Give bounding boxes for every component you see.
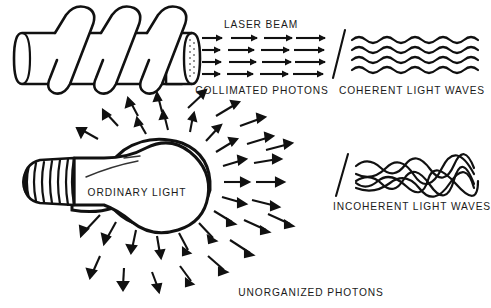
collimated-photons-label: COLLIMATED PHOTONS [195, 85, 329, 96]
diagram-canvas: LASER BEAM COLLIMATED PHOTONS COHERENT L… [0, 0, 491, 308]
unorganized-photons-label: UNORGANIZED PHOTONS [238, 287, 383, 298]
bulb-screw-base [22, 158, 74, 205]
incoherent-light-waves-label: INCOHERENT LIGHT WAVES [333, 201, 491, 212]
ordinary-light-label: ORDINARY LIGHT [88, 187, 187, 198]
coherent-light-waves-label: COHERENT LIGHT WAVES [339, 85, 485, 96]
diagram-root: LASER BEAM COLLIMATED PHOTONS COHERENT L… [0, 0, 491, 308]
laser-beam-label: LASER BEAM [224, 19, 298, 30]
